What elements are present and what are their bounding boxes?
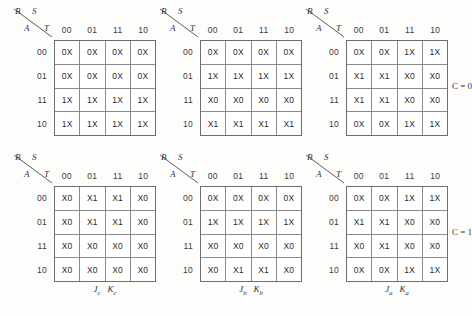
column-header-0: 00 <box>200 25 226 39</box>
column-headers: 00011110 <box>200 171 302 185</box>
column-header-1: 01 <box>80 171 106 185</box>
kmap-cell-r1-c0: X0 <box>55 211 80 234</box>
kmap-cell-r0-c1: 0X <box>226 187 251 210</box>
output-k-subscript: a <box>406 289 409 296</box>
kmap-row: 1X1X1X1X <box>55 112 155 135</box>
kmap-row: 0X0X1X1X <box>347 258 447 281</box>
kmap-row: 1X1X1X1X <box>55 89 155 113</box>
kmap-row: X1X1X1X1 <box>201 112 301 135</box>
kmap-cell-r1-c2: X0 <box>398 65 423 88</box>
header-var-t: T <box>336 24 341 33</box>
kmap-cell-r2-c0: X1 <box>347 89 372 112</box>
kmap-cell-r0-c2: 1X <box>398 41 423 64</box>
kmap-cell-r2-c0: X0 <box>201 89 226 112</box>
kmap-cell-r0-c2: 0X <box>106 41 131 64</box>
kmap-cell-r3-c0: X1 <box>201 112 226 135</box>
header-var-a: A <box>170 24 176 33</box>
kmap-ja-ka-c1: BSAT00011110000111100X0X1X1XX1X1X0X0X0X1… <box>298 150 448 300</box>
kmap-row: 0X0X1X1X <box>347 187 447 211</box>
kmap-cell-r0-c2: 0X <box>252 187 277 210</box>
row-header-3: 10 <box>170 112 196 136</box>
kmap-cell-r1-c2: X0 <box>398 211 423 234</box>
row-header-0: 00 <box>316 186 342 210</box>
kmap-corner-header: BSAT <box>6 4 54 40</box>
header-var-a: A <box>24 24 30 33</box>
header-var-a: A <box>170 170 176 179</box>
kmap-cell-r2-c2: X0 <box>398 235 423 258</box>
kmap-cell-r2-c1: X0 <box>80 235 105 258</box>
kmap-cell-r3-c2: X1 <box>252 258 277 281</box>
kmap-cell-r2-c0: X0 <box>201 235 226 258</box>
column-header-1: 01 <box>372 25 398 39</box>
row-header-2: 11 <box>170 234 196 258</box>
row-header-1: 01 <box>24 64 50 88</box>
kmap-cell-r2-c2: X0 <box>398 89 423 112</box>
kmap-side-label: C = 0 <box>452 81 472 91</box>
kmap-cell-r0-c0: 0X <box>347 187 372 210</box>
kmap-row: 0X0X1X1X <box>347 112 447 135</box>
kmap-cell-r3-c1: 1X <box>80 112 105 135</box>
row-headers: 00011110 <box>170 40 196 136</box>
output-k-subscript: c <box>114 289 117 296</box>
row-header-2: 11 <box>170 88 196 112</box>
kmap-row: X1X1X0X0 <box>347 211 447 235</box>
kmap-jc-kc-c0: BSAT00011110000111100X0X0X0X0X0X0X0X1X1X… <box>6 4 156 154</box>
kmap-cell-r3-c2: X1 <box>252 112 277 135</box>
header-var-s: S <box>324 153 329 162</box>
kmap-row: X0X1X1X0 <box>201 258 301 281</box>
header-var-s: S <box>178 7 183 16</box>
kmap-output-label: JbKb <box>200 284 302 296</box>
header-var-b: B <box>307 7 313 16</box>
kmap-cell-r0-c0: 0X <box>201 41 226 64</box>
column-header-2: 11 <box>251 25 277 39</box>
column-header-0: 00 <box>346 25 372 39</box>
kmap-side-label: C = 1 <box>452 227 472 237</box>
kmap-cell-r2-c0: X0 <box>55 235 80 258</box>
row-header-1: 01 <box>170 64 196 88</box>
kmap-corner-header: BSAT <box>152 150 200 186</box>
kmap-row: 1X1X1X1X <box>201 65 301 89</box>
kmap-cell-r3-c0: 0X <box>347 112 372 135</box>
kmap-output-label: JcKc <box>54 284 156 296</box>
kmap-cell-r1-c0: X1 <box>347 211 372 234</box>
header-var-t: T <box>44 24 49 33</box>
kmap-cell-r3-c2: 1X <box>398 258 423 281</box>
kmap-cell-r1-c2: X1 <box>106 211 131 234</box>
kmap-cell-r3-c1: 0X <box>372 258 397 281</box>
kmap-cell-r3-c1: 0X <box>372 112 397 135</box>
kmap-cell-r3-c0: 0X <box>347 258 372 281</box>
kmap-cell-r3-c1: X1 <box>226 112 251 135</box>
corner-diagonal-line <box>298 4 346 40</box>
header-var-a: A <box>24 170 30 179</box>
output-j: Jc <box>94 284 101 294</box>
row-header-1: 01 <box>316 64 342 88</box>
kmap-cell-r1-c2: 0X <box>106 65 131 88</box>
kmap-cell-r2-c1: X0 <box>226 235 251 258</box>
corner-diagonal-line <box>6 150 54 186</box>
kmap-corner-header: BSAT <box>152 4 200 40</box>
column-header-0: 00 <box>200 171 226 185</box>
column-header-0: 00 <box>54 25 80 39</box>
kmap-cell-r2-c1: 1X <box>80 89 105 112</box>
header-var-b: B <box>15 153 21 162</box>
kmap-output-label: JaKa <box>346 284 448 296</box>
kmap-cell-r1-c0: 1X <box>201 211 226 234</box>
kmap-cell-r2-c3: X0 <box>423 235 447 258</box>
kmap-cell-r0-c2: X1 <box>106 187 131 210</box>
kmap-cell-r2-c2: X0 <box>252 235 277 258</box>
kmap-cell-r2-c2: 1X <box>106 89 131 112</box>
kmap-row: X0X0X0X0 <box>55 258 155 281</box>
row-headers: 00011110 <box>316 186 342 282</box>
kmap-cell-r1-c1: X1 <box>80 211 105 234</box>
corner-diagonal-line <box>6 4 54 40</box>
kmap-cell-r0-c0: 0X <box>347 41 372 64</box>
kmap-cell-r1-c0: 1X <box>201 65 226 88</box>
kmap-row: X0X1X0X0 <box>347 235 447 259</box>
kmap-row: 1X1X1X1X <box>201 211 301 235</box>
kmap-cell-r1-c1: 0X <box>80 65 105 88</box>
kmap-cell-r1-c2: 1X <box>252 65 277 88</box>
kmap-cell-r2-c1: X0 <box>226 89 251 112</box>
corner-diagonal-line <box>152 150 200 186</box>
kmap-row: X0X0X0X0 <box>201 89 301 113</box>
header-var-s: S <box>178 153 183 162</box>
